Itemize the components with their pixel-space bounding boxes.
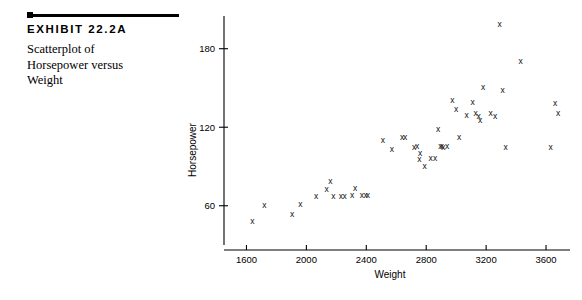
data-point: x [518,56,523,66]
x-tick-label: 1600 [236,254,257,265]
data-point: x [471,97,476,107]
data-point: x [553,98,558,108]
data-point: x [418,148,423,158]
x-axis: 160020002400280032003600 Weight [224,245,570,280]
data-point: x [262,200,267,210]
data-point: x [445,141,450,151]
y-axis-title: Horsepower [187,122,198,177]
chart-canvas: 60120180 Horsepower 16002000240028003200… [0,0,582,300]
data-point: x [390,144,395,154]
x-axis-title: Weight [375,269,406,280]
data-point: x [548,142,553,152]
data-point: x [503,142,508,152]
data-point: x [457,132,462,142]
data-point: x [298,199,303,209]
data-point: x [353,183,358,193]
x-tick-label: 2000 [296,254,317,265]
data-point: x [342,191,347,201]
scatter-chart: 60120180 Horsepower 16002000240028003200… [0,0,582,300]
x-tick-label: 2800 [416,254,437,265]
data-point: x [433,153,438,163]
y-tick-label: 60 [204,200,215,211]
data-point: x [314,191,319,201]
data-point: x [250,216,255,226]
data-point-group: xxxxxxxxxxxxxxxxxxxxxxxxxxxxxxxxxxxxxxxx… [250,19,561,225]
data-point: x [381,135,386,145]
data-point: x [500,85,505,95]
y-tick-label: 180 [199,43,215,54]
data-point: x [556,108,561,118]
data-point: x [436,124,441,134]
x-tick-label: 2400 [356,254,377,265]
y-axis: 60120180 Horsepower [187,16,228,245]
data-point: x [290,209,295,219]
data-point: x [478,115,483,125]
y-tick-label: 120 [199,122,215,133]
data-point: x [328,176,333,186]
x-tick-label: 3200 [476,254,497,265]
data-point: x [331,191,336,201]
data-point: x [465,110,470,120]
data-point: x [497,19,502,29]
data-point: x [403,132,408,142]
data-point: x [481,82,486,92]
data-point: x [423,161,428,171]
data-point: x [454,104,459,114]
data-point: x [493,111,498,121]
x-tick-group: 160020002400280032003600 [236,245,557,265]
x-tick-label: 3600 [535,254,556,265]
data-point: x [366,190,371,200]
